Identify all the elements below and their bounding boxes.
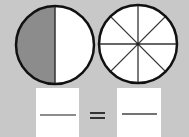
- left-fraction-box[interactable]: [36, 88, 79, 137]
- eighths-circle: [99, 5, 177, 83]
- fraction-diagram: [0, 0, 189, 137]
- right-fraction-box[interactable]: [117, 88, 161, 137]
- half-circle: [16, 6, 94, 84]
